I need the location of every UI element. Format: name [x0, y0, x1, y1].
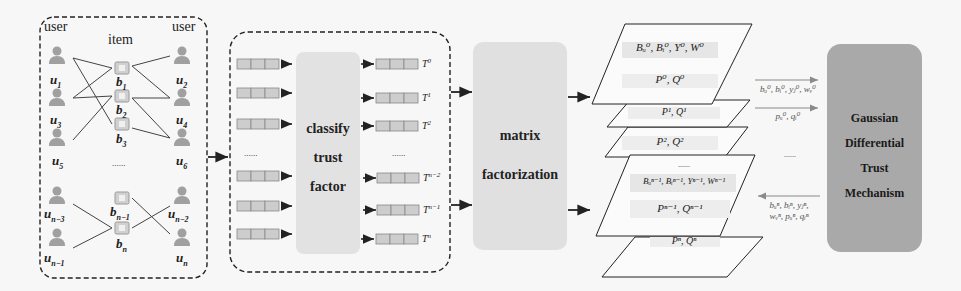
return-params-label: bᵤⁿ, bᵢⁿ, yⱼⁿ, wᵥⁿ, pᵤⁿ, qᵢⁿ [756, 200, 822, 222]
upload-pq-label: pᵤ⁰, qᵢ⁰ [752, 111, 824, 121]
user-label-un: un [176, 250, 188, 268]
user-right-header: user [172, 19, 195, 35]
user-left-header: user [44, 19, 67, 35]
layer-n-1-label: Pⁿ⁻¹, Qⁿ⁻¹ [622, 202, 738, 215]
gdtm-label: Gaussian Differential Trust Mechanism [827, 106, 922, 206]
user-label-u4: u4 [176, 112, 187, 130]
layer-top-params: Bᵤ⁰, Bᵢ⁰, Y⁰, W⁰ [612, 41, 728, 54]
item-label-b2: b2 [116, 102, 127, 120]
item-label-b3: b3 [116, 131, 127, 149]
classify-trust-factor-label: classify trust factor [296, 114, 360, 201]
output-Tn-2: Tn−2 [423, 171, 440, 183]
input-ellipsis: ...... [244, 148, 258, 158]
output-T1: T1 [422, 91, 431, 103]
user-label-u6: u6 [176, 153, 187, 171]
output-ellipsis: ...... [392, 148, 406, 158]
matrix-factorization-label: matrix factorization [473, 116, 567, 194]
layer-ellipsis: ...... [626, 160, 742, 169]
item-label-bn: bn [116, 236, 127, 254]
layer-0-label: P⁰, Q⁰ [612, 73, 728, 86]
user-label-u2: u2 [176, 72, 187, 90]
output-Tn-1: Tn−1 [423, 203, 440, 215]
upload-params-label: bᵤ⁰, bᵢ⁰, yⱼ⁰, wᵥ⁰ [752, 84, 824, 94]
user-label-un-2: un−2 [168, 206, 189, 224]
user-label-un-1: un−1 [44, 250, 65, 268]
output-T0: T0 [422, 57, 431, 69]
diagram-canvas: user item user u1 u3 u5 un−3 un−1 b1 b2 … [0, 0, 961, 291]
layer-1-label: P¹, Q¹ [616, 106, 732, 117]
user-label-un-3: un−3 [44, 206, 65, 224]
item-header: item [108, 32, 133, 48]
user-label-u1: u1 [50, 72, 61, 90]
item-label-bn-1: bn−1 [110, 204, 130, 222]
layer-2-label: P², Q² [612, 135, 728, 147]
item-label-b1: b1 [116, 74, 127, 92]
transfer-ellipsis: ...... [770, 150, 810, 159]
output-Tn: Tn [422, 232, 431, 244]
user-label-u5: u5 [52, 153, 63, 171]
layer-n-1-params: Bᵤⁿ⁻¹, Bᵢⁿ⁻¹, Yⁿ⁻¹, Wⁿ⁻¹ [622, 176, 746, 186]
bipartite-ellipsis: ...... [112, 158, 126, 168]
layer-n-label: Pⁿ, Qⁿ [626, 235, 742, 246]
user-label-u3: u3 [50, 112, 61, 130]
output-T2: T2 [422, 119, 431, 131]
